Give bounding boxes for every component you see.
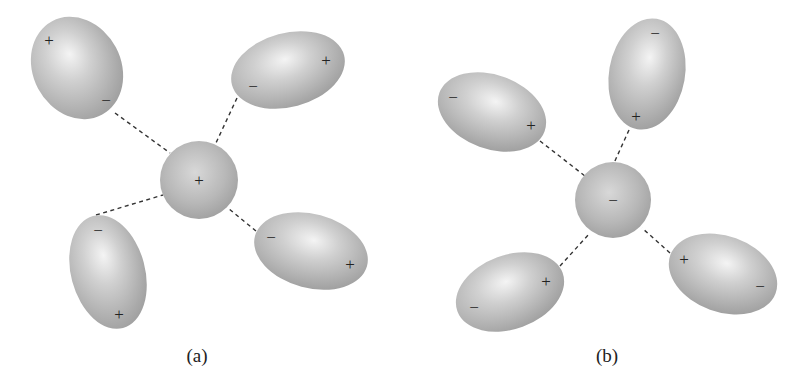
positive-pole-sign: + xyxy=(679,250,689,269)
dipole-molecule: − + xyxy=(600,12,694,135)
dashed-bond xyxy=(540,141,585,176)
cation-sign: + xyxy=(194,171,204,190)
negative-pole-sign: − xyxy=(266,228,276,247)
ion-dipole-figure: + − + − − + − + + (a) xyxy=(0,0,805,383)
negative-pole-sign: − xyxy=(448,88,458,107)
dipole-molecule: + − xyxy=(222,19,353,121)
dashed-bond xyxy=(115,113,170,153)
dashed-bond xyxy=(642,228,670,253)
positive-pole-sign: + xyxy=(631,107,641,126)
anion: − xyxy=(575,162,651,238)
positive-pole-sign: + xyxy=(44,31,54,50)
caption-b: (b) xyxy=(596,345,618,367)
negative-pole-sign: − xyxy=(93,221,103,240)
dashed-bond xyxy=(614,130,629,163)
panel-b: − + − + + − + − − (b) xyxy=(427,12,789,367)
panel-a: + − + − − + − + + (a) xyxy=(13,1,376,367)
dashed-bond xyxy=(215,98,237,145)
positive-pole-sign: + xyxy=(541,272,551,291)
dipole-molecule: + − xyxy=(657,219,788,329)
dashed-bond xyxy=(228,208,256,231)
negative-pole-sign: − xyxy=(469,298,479,317)
positive-pole-sign: + xyxy=(114,305,124,324)
dipole-molecule: + − xyxy=(13,1,140,136)
caption-a: (a) xyxy=(186,345,207,367)
dipole-molecule: − + xyxy=(427,58,558,166)
positive-pole-sign: + xyxy=(345,255,355,274)
negative-pole-sign: − xyxy=(101,91,111,110)
dashed-bond xyxy=(96,195,163,215)
dashed-bond xyxy=(560,233,590,266)
negative-pole-sign: − xyxy=(755,277,765,296)
positive-pole-sign: + xyxy=(526,116,536,135)
cation: + xyxy=(160,141,238,219)
anion-sign: − xyxy=(608,191,618,210)
dipole-molecule: − + xyxy=(245,200,376,302)
dipole-molecule: + − xyxy=(445,238,576,346)
negative-pole-sign: − xyxy=(650,24,660,43)
negative-pole-sign: − xyxy=(248,77,258,96)
dipole-molecule: − + xyxy=(57,206,159,337)
positive-pole-sign: + xyxy=(321,51,331,70)
